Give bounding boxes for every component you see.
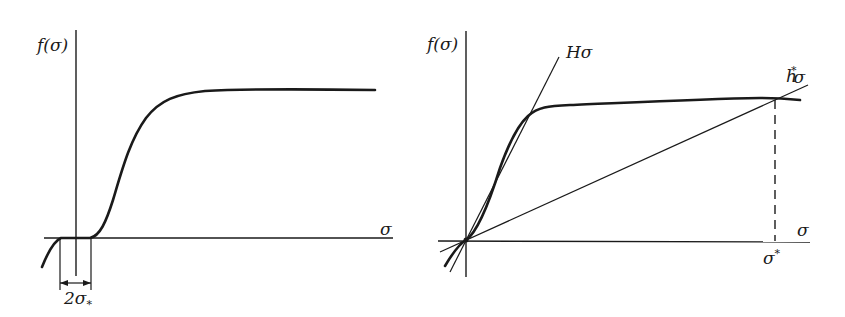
secant-line-label: h*σ — [786, 64, 805, 87]
tangent-line-label: Hσ — [565, 42, 593, 62]
right-arrowhead-icon — [83, 280, 91, 286]
left-panel: f(σ) σ 2σ* — [35, 30, 393, 311]
right-x-axis-label: σ — [797, 220, 809, 240]
sigma-star-label: σ* — [763, 247, 781, 268]
origin-point — [464, 238, 469, 243]
left-y-axis-label: f(σ) — [35, 35, 68, 55]
left-f-curve — [42, 89, 375, 267]
left-arrowhead-icon — [60, 280, 68, 286]
left-width-label: 2σ* — [63, 288, 92, 311]
right-panel: f(σ) Hσ h*σ σ σ* — [425, 31, 810, 277]
right-x-axis — [438, 241, 810, 242]
right-y-axis-label: f(σ) — [425, 34, 458, 54]
left-x-axis-label: σ — [380, 219, 392, 239]
secant-line-h-star-sigma — [440, 85, 808, 252]
diagram-canvas: f(σ) σ 2σ* f(σ) Hσ h*σ σ σ* — [0, 0, 845, 317]
